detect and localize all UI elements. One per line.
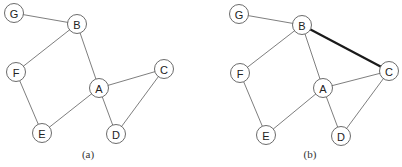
node-a: A (90, 79, 109, 98)
graph-b: GBFACED(b) (230, 5, 399, 162)
node-b: B (293, 16, 312, 35)
node-label: D (112, 129, 120, 141)
node-label: E (262, 130, 269, 142)
caption-b: (b) (304, 148, 317, 161)
graph-diagram-canvas: GBFACED(a) GBFACED(b) (0, 0, 402, 167)
node-e: E (257, 126, 276, 145)
edge-e-a (266, 88, 323, 135)
edge-c-d (116, 69, 164, 134)
node-label: A (95, 83, 103, 95)
node-a: A (314, 79, 333, 98)
node-label: C (385, 66, 393, 78)
node-label: B (73, 19, 80, 31)
node-label: D (337, 131, 345, 143)
node-label: G (10, 8, 19, 20)
node-label: C (160, 64, 168, 76)
node-g: G (230, 5, 249, 24)
node-b: B (68, 15, 87, 34)
node-f: F (7, 63, 26, 82)
graph-a: GBFACED(a) (5, 4, 174, 162)
edge-b-a (77, 24, 99, 88)
node-c: C (380, 62, 399, 81)
edge-f-e (240, 73, 266, 135)
edge-c-d (341, 71, 389, 136)
edge-b-f (16, 24, 77, 72)
node-label: G (235, 9, 244, 21)
node-d: D (107, 125, 126, 144)
node-label: E (38, 128, 45, 140)
node-e: E (33, 124, 52, 143)
node-label: A (319, 83, 327, 95)
node-label: F (237, 68, 244, 80)
node-label: F (13, 67, 20, 79)
node-d: D (332, 127, 351, 146)
edge-e-a (42, 88, 99, 133)
edge-b-f (240, 25, 302, 73)
node-f: F (231, 64, 250, 83)
edge-a-c (99, 69, 164, 88)
caption-a: (a) (82, 148, 95, 161)
node-c: C (155, 60, 174, 79)
node-g: G (5, 4, 24, 23)
node-label: B (298, 20, 305, 32)
edge-a-c (323, 71, 389, 88)
